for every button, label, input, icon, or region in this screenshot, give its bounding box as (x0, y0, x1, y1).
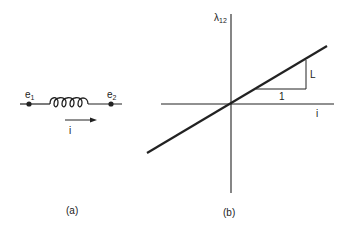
node-e1-label: e1 (25, 89, 35, 101)
node-e1-dot (26, 101, 31, 106)
caption-a: (a) (66, 205, 78, 216)
flux-current-plot: 1 L λ12 i (b) (147, 12, 334, 218)
current-arrow-head-icon (90, 118, 97, 123)
node-e2-dot (108, 101, 113, 106)
inductor-coil-icon (50, 98, 88, 107)
y-axis-label: λ12 (214, 12, 227, 24)
diagram-canvas: e1 e2 i (a) 1 L λ12 i (b) (0, 0, 350, 235)
linear-characteristic-line (147, 46, 327, 153)
x-axis-label: i (316, 108, 318, 119)
current-label: i (69, 125, 71, 136)
node-e2-label: e2 (107, 89, 117, 101)
slope-rise-label: L (310, 69, 316, 80)
slope-run-label: 1 (279, 91, 285, 102)
caption-b: (b) (223, 207, 235, 218)
inductor-diagram: e1 e2 i (a) (20, 89, 122, 216)
